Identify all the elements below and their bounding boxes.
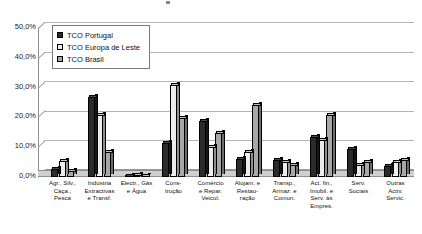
legend-label-europa-de-leste: TCO Europa de Leste [67, 43, 140, 52]
bar-top [171, 83, 179, 86]
x-axis-tick-label-line: Empres. [300, 203, 343, 211]
bar-group [192, 29, 229, 177]
legend-swatch-brasil [57, 56, 63, 62]
bar-top [200, 119, 208, 122]
bar-top [364, 160, 372, 163]
bar[interactable] [384, 166, 391, 177]
bar-face [347, 149, 354, 177]
bar-top [89, 95, 97, 98]
bar-face [310, 137, 317, 177]
legend-item[interactable]: TCO Brasil [57, 53, 145, 65]
bar-face [236, 159, 243, 177]
bar-top [348, 147, 356, 150]
bar-top [290, 163, 298, 166]
bar[interactable] [236, 159, 243, 177]
bar-top [208, 145, 216, 148]
bar[interactable] [273, 160, 280, 177]
legend-swatch-europa-de-leste [57, 44, 63, 50]
bar-side [259, 102, 262, 174]
bar-side [325, 137, 328, 174]
bar-side [317, 134, 320, 174]
bar-face [51, 169, 58, 177]
bar-top [401, 158, 409, 161]
bar[interactable] [51, 169, 58, 177]
bar-side [169, 140, 172, 174]
bar[interactable] [141, 176, 148, 178]
bar[interactable] [199, 121, 206, 177]
legend-swatch-portugal [57, 32, 63, 38]
bar-top [97, 113, 105, 116]
bar-face [199, 121, 206, 177]
bar-top [237, 157, 245, 160]
bar-top [60, 159, 68, 162]
bar-side [222, 130, 225, 174]
bar-side [177, 82, 180, 174]
bar-top [327, 113, 335, 116]
bar-top [393, 160, 401, 163]
bar-top [105, 150, 113, 153]
x-axis-tick-label-line: Outras [374, 180, 417, 188]
legend-item[interactable]: TCO Europa de Leste [57, 41, 145, 53]
bar-side [354, 146, 357, 174]
bar-top [52, 167, 60, 170]
bar[interactable] [133, 175, 140, 177]
bar-side [214, 144, 217, 174]
bar-top [163, 141, 171, 144]
x-axis-tick-label-line: e Transf. [78, 195, 121, 203]
bar-top [319, 138, 327, 141]
bar[interactable] [347, 149, 354, 177]
bar-face [384, 166, 391, 177]
legend: TCO Portugal TCO Europa de Leste TCO Bra… [52, 25, 150, 69]
bar-top [142, 174, 150, 177]
bar-group [155, 29, 192, 177]
bar-group [303, 29, 340, 177]
bar-top [126, 174, 134, 177]
bar-side [333, 112, 336, 174]
bar-top [274, 158, 282, 161]
bar-group [266, 29, 303, 177]
bar[interactable] [88, 97, 95, 178]
x-axis-tick-label-line: Serv. às [300, 195, 343, 203]
legend-item[interactable]: TCO Portugal [57, 29, 145, 41]
bar[interactable] [125, 176, 132, 178]
bar-face [273, 160, 280, 177]
bar-top [253, 103, 261, 106]
bar-top [216, 131, 224, 134]
bar-side [185, 115, 188, 174]
bar-chart: 50,0%40,0%30,0%20,0%10,0%0,0% TCO Portug… [0, 0, 422, 234]
bar-side [95, 94, 98, 175]
x-axis-labels: Agr., Silv.,Caça.,PescaIndústriaExtracti… [0, 180, 422, 234]
bar-side [206, 118, 209, 174]
bar-top [385, 164, 393, 167]
bar-top [311, 135, 319, 138]
bar-group [340, 29, 377, 177]
bar-top [245, 150, 253, 153]
bar-top [134, 173, 142, 176]
bar-top [356, 163, 364, 166]
bar-top [68, 169, 76, 172]
legend-label-portugal: TCO Portugal [67, 31, 113, 40]
bar-top [282, 160, 290, 163]
bar-top [179, 116, 187, 119]
x-axis-tick-label-line: Servic. [374, 195, 417, 203]
bar[interactable] [310, 137, 317, 177]
bar-group [377, 29, 414, 177]
bar-side [103, 112, 106, 174]
bar[interactable] [162, 143, 169, 177]
x-axis-tick-label: OutrasActiv.Servic. [374, 180, 417, 203]
bar-face [162, 143, 169, 177]
bar-face [88, 97, 95, 178]
bar-group [229, 29, 266, 177]
legend-label-brasil: TCO Brasil [67, 55, 104, 64]
x-axis-tick-label-line: Activ. [374, 188, 417, 196]
